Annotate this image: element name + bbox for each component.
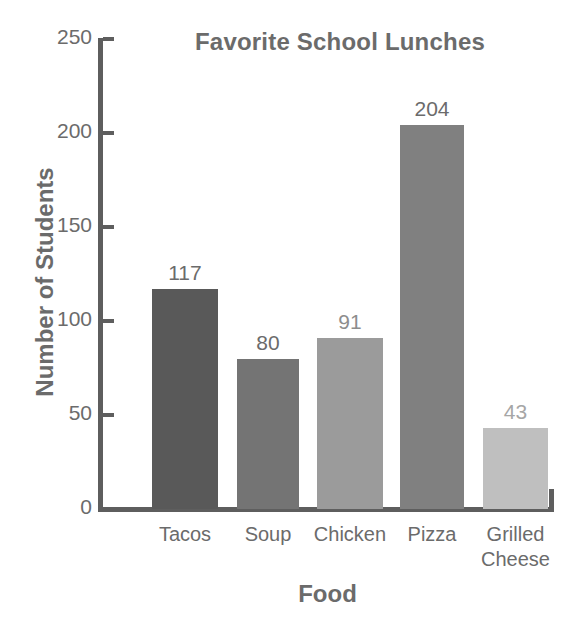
bar-value-label: 117: [132, 261, 238, 285]
bar: [237, 359, 299, 509]
bar-value-label: 91: [297, 310, 403, 334]
bar: [317, 338, 383, 509]
bar-value-label: 204: [380, 97, 484, 121]
x-axis-category-label: Grilled Cheese: [461, 522, 570, 572]
bar-chart-figure: Favorite School Lunches Number of Studen…: [0, 0, 588, 622]
bar: [400, 125, 464, 509]
bar: [483, 428, 548, 509]
bar-value-label: 80: [217, 331, 319, 355]
bar-value-label: 43: [463, 400, 568, 424]
bar: [152, 289, 218, 509]
